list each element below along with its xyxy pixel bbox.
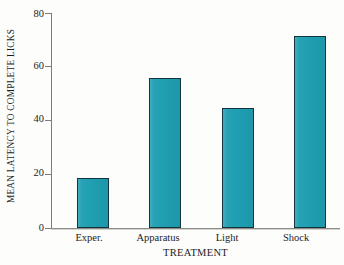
bar-light <box>222 108 254 228</box>
x-tick-label-light: Light <box>195 232 259 243</box>
y-tick-label-0: 0 <box>22 223 44 233</box>
plot-area <box>51 13 340 228</box>
y-tick-label-40: 40 <box>22 114 44 124</box>
y-tick-label-80: 80 <box>22 9 44 19</box>
x-tick-label-exper: Exper. <box>57 232 121 243</box>
y-tick-label-60: 60 <box>22 61 44 71</box>
x-axis-line <box>51 228 340 229</box>
bar-shock <box>294 36 326 228</box>
y-axis-title-text: MEAN LATENCY TO COMPLETE LICKS <box>6 29 16 203</box>
y-tick-label-20: 20 <box>22 168 44 178</box>
bar-exper <box>77 178 109 228</box>
x-axis-title: TREATMENT <box>51 247 340 258</box>
x-tick-label-apparatus: Apparatus <box>126 232 190 243</box>
y-axis-title: MEAN LATENCY TO COMPLETE LICKS <box>0 0 22 232</box>
bar-chart-figure: MEAN LATENCY TO COMPLETE LICKS 80 60 40 … <box>0 0 344 265</box>
bar-apparatus <box>149 78 181 229</box>
x-tick-label-shock: Shock <box>264 232 328 243</box>
